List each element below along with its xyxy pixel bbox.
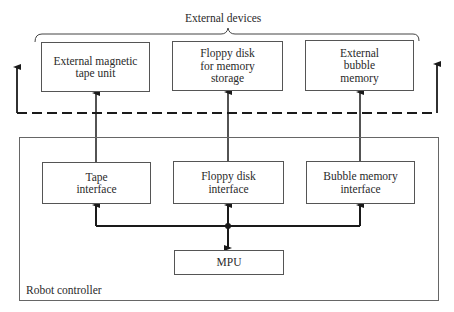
bubble-memory-interface-box: Bubble memory interface	[306, 161, 415, 204]
robot-controller-label: Robot controller	[26, 284, 102, 296]
floppy-disk-storage-box: Floppy disk for memory storage	[172, 41, 283, 91]
floppy-disk-interface-box: Floppy disk interface	[173, 161, 284, 204]
external-devices-label: External devices	[185, 12, 261, 24]
tape-interface-box: Tape interface	[42, 162, 151, 204]
external-bubble-memory-label: External bubble memory	[335, 47, 385, 85]
external-tape-unit-label: External magnetic tape unit	[50, 55, 142, 80]
external-tape-unit-box: External magnetic tape unit	[41, 42, 150, 92]
external-bubble-memory-box: External bubble memory	[305, 40, 414, 91]
tape-interface-label: Tape interface	[67, 171, 127, 196]
floppy-disk-storage-label: Floppy disk for memory storage	[193, 47, 263, 85]
mpu-label: MPU	[217, 256, 242, 269]
bubble-memory-interface-label: Bubble memory interface	[321, 170, 401, 195]
mpu-box: MPU	[174, 250, 284, 275]
floppy-disk-interface-label: Floppy disk interface	[194, 170, 264, 195]
